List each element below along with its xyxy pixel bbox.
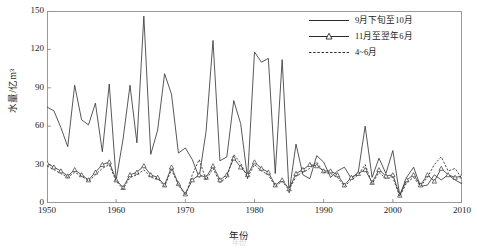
x-tick-label: 2000 [384, 205, 402, 215]
series-marker [225, 173, 229, 177]
x-tick-label: 1980 [246, 205, 264, 215]
x-tick-label: 2010 [453, 205, 471, 215]
legend: 9月下旬至10月 11月至翌年6月 4~6月 [308, 14, 413, 62]
series-marker [114, 178, 118, 182]
series-marker [142, 164, 146, 168]
legend-symbol-dashed-line [308, 47, 350, 58]
series-marker [294, 171, 298, 175]
legend-symbol-triangle-line [308, 31, 350, 42]
chart-figure: 水量/亿m³ 0306090120150 1950196019701980199… [0, 0, 477, 251]
series-marker [59, 169, 63, 173]
series-marker [169, 165, 173, 169]
y-tick-label: 90 [6, 83, 44, 92]
x-tick-label: 1950 [38, 205, 56, 215]
legend-item-1: 11月至翌年6月 [308, 30, 413, 43]
y-tick-label: 60 [6, 121, 44, 130]
series-marker [377, 168, 381, 172]
series-marker [252, 160, 256, 164]
series-marker [72, 168, 76, 172]
figure-caption-line1: 年份 [0, 236, 477, 247]
series-marker [308, 162, 312, 166]
series-marker [266, 170, 270, 174]
y-tick-label: 120 [6, 44, 44, 53]
x-tick-label: 1960 [107, 205, 125, 215]
y-axis-tick-labels: 0306090120150 [0, 11, 44, 203]
x-tick-label: 1990 [315, 205, 333, 215]
legend-item-0: 9月下旬至10月 [308, 14, 413, 27]
series-marker [47, 161, 49, 165]
series-marker [411, 173, 415, 177]
legend-symbol-solid-line [308, 15, 350, 26]
x-axis-tick-labels: 1950196019701980199020002010 [47, 205, 462, 221]
legend-label-1: 11月至翌年6月 [355, 32, 413, 41]
y-tick-label: 150 [6, 6, 44, 15]
y-tick-label: 30 [6, 160, 44, 169]
series-marker [439, 166, 443, 170]
series-marker [335, 173, 339, 177]
legend-label-2: 4~6月 [355, 48, 377, 57]
x-tick-label: 1970 [176, 205, 194, 215]
series-marker [425, 173, 429, 177]
legend-label-0: 9月下旬至10月 [355, 16, 413, 25]
series-marker [107, 160, 111, 164]
legend-item-2: 4~6月 [308, 46, 413, 59]
series-marker [391, 173, 395, 177]
series-marker [211, 164, 215, 168]
